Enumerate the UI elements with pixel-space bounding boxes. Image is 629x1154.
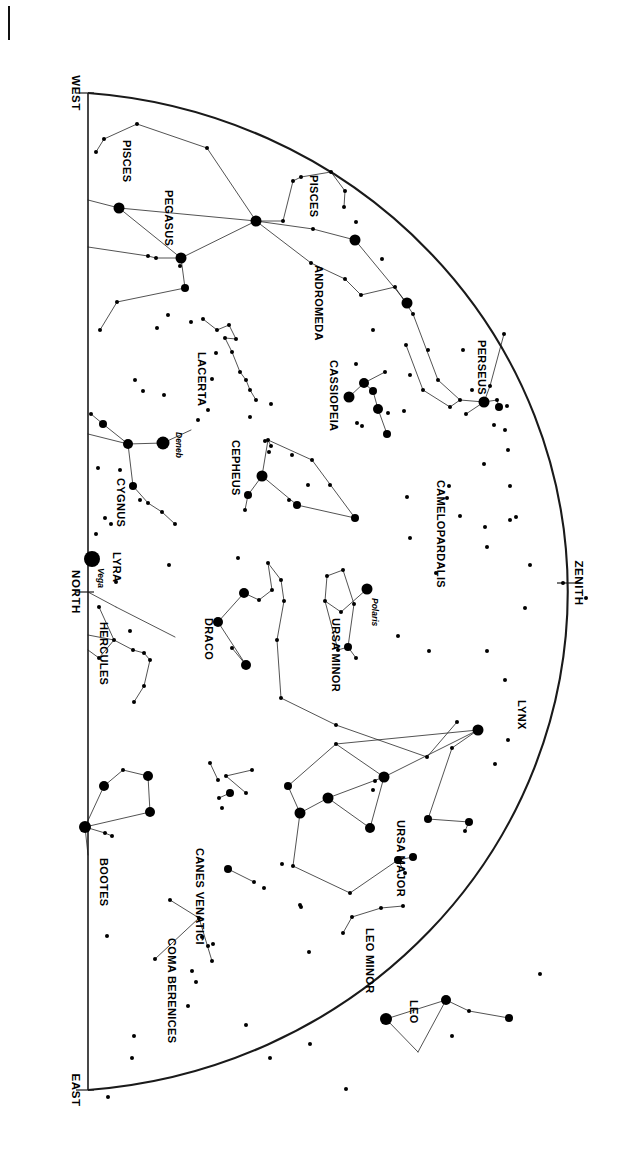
star-dot: [464, 412, 468, 416]
constellation-line: [328, 798, 370, 828]
star-dot: [275, 638, 279, 642]
star-dot: [343, 277, 347, 281]
star-dot: [523, 606, 527, 610]
star-dot: [214, 351, 218, 355]
constellation-line: [218, 622, 246, 665]
star-dot: [350, 915, 354, 919]
named-star-dot: [157, 437, 170, 450]
star-dot: [310, 458, 314, 462]
constellation-line: [268, 440, 312, 460]
star-dot: [354, 656, 358, 660]
constellation-line: [438, 380, 460, 400]
constellation-label: CAMELOPARDALIS: [435, 480, 447, 588]
named-star-label: Deneb: [174, 432, 184, 458]
star-dot-group: [79, 122, 588, 1099]
star-dot: [483, 525, 487, 529]
star-dot: [94, 532, 98, 536]
constellation-label-group: PISCESPEGASUSPISCESANDROMEDACASSIOPEIAPE…: [98, 140, 528, 1043]
star-dot: [506, 738, 510, 742]
constellation-line: [148, 776, 150, 812]
constellation-line: [88, 247, 148, 256]
star-dot: [354, 220, 358, 224]
star-dot: [427, 649, 431, 653]
constellation-line: [344, 191, 345, 207]
constellation-label: LYRA: [111, 552, 123, 582]
constellation-line: [117, 288, 185, 302]
star-dot: [329, 170, 333, 174]
star-dot: [270, 588, 274, 592]
star-dot: [425, 755, 429, 759]
constellation-label: URSA MAJOR: [395, 820, 407, 897]
star-dot: [479, 397, 490, 408]
constellation-label: HERCULES: [98, 622, 110, 685]
constellation-line: [277, 601, 284, 640]
constellation-label: CANES VENATICI: [194, 848, 206, 945]
star-dot: [244, 491, 252, 499]
star-dot: [282, 599, 286, 603]
constellation-label: PISCES: [308, 175, 320, 217]
constellation-line: [228, 869, 254, 882]
star-dot: [424, 815, 432, 823]
constellation-label: LYNX: [516, 700, 528, 730]
star-dot: [210, 959, 214, 963]
star-dot: [350, 235, 361, 246]
star-dot: [99, 781, 109, 791]
star-dot: [426, 348, 430, 352]
star-dot: [94, 150, 98, 154]
star-dot: [339, 610, 343, 614]
constellation-label: LEO MINOR: [364, 928, 376, 993]
star-dot: [138, 498, 142, 502]
constellation-line: [114, 640, 133, 650]
constellation-line: [226, 770, 252, 776]
constellation-line: [96, 139, 104, 152]
star-dot: [436, 378, 440, 382]
star-dot: [268, 1056, 272, 1060]
star-dot: [371, 788, 375, 792]
star-dot: [215, 328, 219, 332]
star-dot: [380, 257, 384, 261]
star-dot: [295, 808, 306, 819]
constellation-line: [331, 172, 345, 191]
star-dot: [224, 865, 232, 873]
star-dot: [359, 293, 363, 297]
star-dot: [485, 649, 489, 653]
constellation-label: LACERTA: [196, 352, 208, 406]
star-dot: [217, 796, 221, 800]
star-dot: [155, 326, 159, 330]
star-dot: [325, 574, 329, 578]
constellation-line: [336, 744, 384, 777]
star-dot: [234, 337, 238, 341]
cardinal-label-north: NORTH: [70, 570, 82, 614]
star-dot: [369, 387, 377, 395]
constellation-line: [312, 460, 355, 518]
star-dot: [201, 317, 205, 321]
star-dot: [252, 880, 256, 884]
constellation-line: [210, 763, 218, 780]
star-dot: [343, 189, 347, 193]
constellation-line: [281, 698, 336, 725]
constellation-line: [325, 576, 327, 601]
star-dot: [243, 508, 247, 512]
star-dot: [380, 1013, 392, 1025]
star-dot: [153, 957, 157, 961]
constellation-line: [297, 505, 355, 518]
star-dot: [131, 648, 135, 652]
star-dot: [114, 203, 125, 214]
star-dot: [528, 563, 532, 567]
star-dot: [379, 906, 383, 910]
constellation-label: COMA BERENICES: [166, 938, 178, 1043]
star-dot: [308, 1042, 312, 1046]
constellation-label: ANDROMEDA: [313, 265, 325, 341]
star-dot: [279, 578, 283, 582]
star-dot: [287, 498, 291, 502]
named-star-dot: [362, 584, 373, 595]
star-dot: [178, 264, 182, 268]
constellation-line: [162, 512, 175, 524]
star-dot: [99, 420, 107, 428]
constellation-line: [225, 338, 232, 352]
constellation-line: [119, 208, 256, 221]
star-dot: [411, 312, 415, 316]
star-dot: [103, 516, 107, 520]
cardinal-label-east: EAST: [70, 1073, 82, 1106]
star-dot: [173, 522, 177, 526]
